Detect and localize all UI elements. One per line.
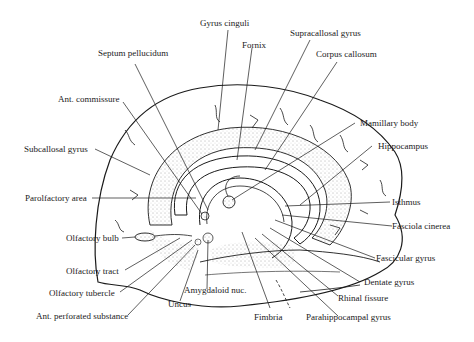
label-olfactory-tract: Olfactory tract (66, 266, 119, 276)
label-subcallosal-gyrus: Subcallosal gyrus (24, 144, 88, 154)
label-amygdaloid-nuc: Amygdaloid nuc. (184, 285, 247, 295)
label-ant-perforated-substance: Ant. perforated substance (36, 311, 128, 321)
hemisphere-outline (95, 85, 402, 307)
label-parolfactory-area: Parolfactory area (25, 193, 87, 203)
label-parahippocampal-gyrus: Parahippocampal gyrus (306, 312, 391, 322)
label-mamillary-body: Mamillary body (360, 118, 418, 128)
ant-commissure-dot (201, 212, 209, 220)
leader-lines (92, 30, 392, 316)
label-fascicular-gyrus: Fascicular gyrus (376, 253, 435, 263)
corpus-callosum-shape (174, 156, 320, 244)
label-isthmus: Isthmus (392, 197, 421, 207)
label-ant-commissure: Ant. commissure (58, 94, 120, 104)
olfactory-tract-shape (155, 235, 192, 237)
label-gyrus-cinguli: Gyrus cinguli (200, 18, 249, 28)
label-hippocampus: Hippocampus (378, 141, 428, 151)
olfactory-bulb-shape (135, 233, 155, 241)
label-dentate-gyrus: Dentate gyrus (364, 277, 414, 287)
label-supracallosal-gyrus: Supracallosal gyrus (290, 28, 361, 38)
label-uncus: Uncus (168, 299, 191, 309)
label-fimbria: Fimbria (254, 312, 283, 322)
label-olfactory-tubercle: Olfactory tubercle (49, 288, 115, 298)
mamillary-body-shape (223, 196, 235, 208)
label-rhinal-fissure: Rhinal fissure (338, 293, 388, 303)
label-septum-pellucidum: Septum pellucidum (98, 48, 168, 58)
label-olfactory-bulb: Olfactory bulb (66, 233, 119, 243)
label-fasciola-cinerea: Fasciola cinerea (392, 221, 450, 231)
label-fornix: Fornix (242, 40, 266, 50)
diagram-canvas: Gyrus cinguli Septum pellucidum Fornix S… (0, 0, 474, 342)
label-corpus-callosum: Corpus callosum (316, 49, 377, 59)
